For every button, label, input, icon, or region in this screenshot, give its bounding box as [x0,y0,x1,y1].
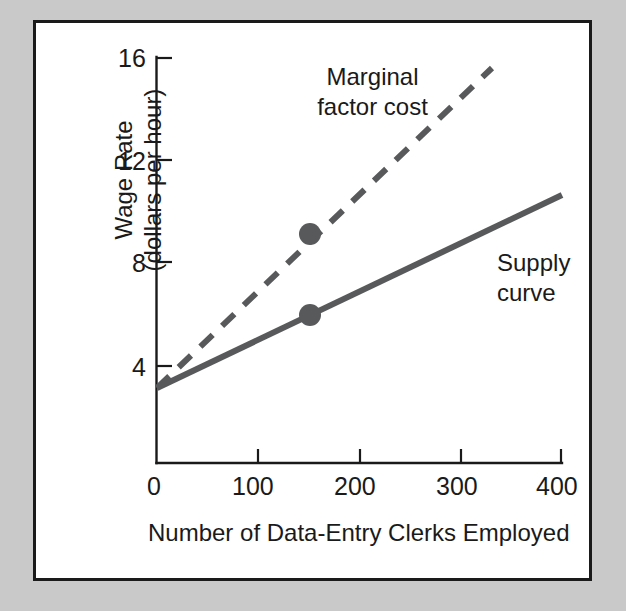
x-tick-label-0: 0 [147,472,161,501]
annotation-supply-line2: curve [497,278,602,308]
x-tick-label-100: 100 [232,472,274,501]
y-axis-title-line1: Wage Rate [109,70,138,290]
y-tick-label-4: 4 [132,353,146,382]
annotation-marginal-factor-cost: Marginal factor cost [300,62,445,122]
x-axis-title: Number of Data-Entry Clerks Employed [148,518,568,547]
y-axis-title: Wage Rate (dollars per hour) [109,70,168,290]
x-tick-label-400: 400 [536,472,578,501]
annotation-supply-line1: Supply [497,248,602,278]
annotation-supply-curve: Supply curve [497,248,602,308]
y-axis-title-wrap: Wage Rate (dollars per hour) [108,70,168,290]
y-tick-label-16: 16 [118,44,146,73]
x-tick-label-300: 300 [436,472,478,501]
figure-root: 16 12 8 4 0 100 200 300 400 Marginal fac… [0,0,626,611]
x-tick-label-200: 200 [334,472,376,501]
y-axis-title-line2: (dollars per hour) [138,70,167,290]
annotation-mfc-line1: Marginal [300,62,445,92]
annotation-mfc-line2: factor cost [300,92,445,122]
